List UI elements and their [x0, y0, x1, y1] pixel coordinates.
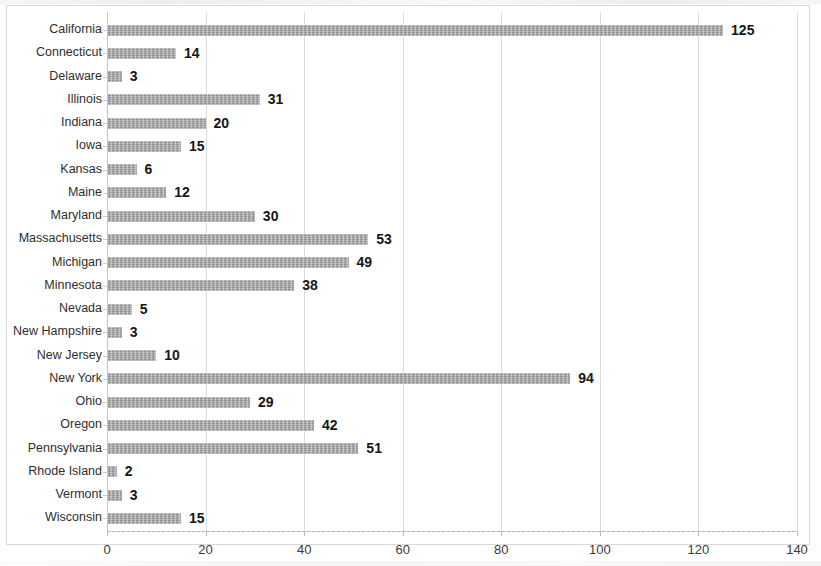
bar [107, 420, 314, 431]
category-label: Massachusetts [2, 231, 102, 245]
y-axis-tick [103, 518, 107, 519]
bar [107, 234, 368, 245]
bar-value-label: 30 [263, 208, 279, 224]
bar-value-label: 29 [258, 394, 274, 410]
y-axis-tick [103, 309, 107, 310]
bar-value-label: 15 [189, 510, 205, 526]
bar-value-label: 49 [357, 254, 373, 270]
y-axis-tick [103, 216, 107, 217]
x-axis-tick [206, 531, 207, 536]
bar [107, 397, 250, 408]
plot-area: 0204060801001201401251433120156123053493… [107, 12, 797, 531]
x-axis-tick-label: 80 [494, 542, 508, 557]
x-axis-tick [501, 531, 502, 536]
bar [107, 118, 206, 129]
bar [107, 513, 181, 524]
bar [107, 141, 181, 152]
y-axis-tick [103, 77, 107, 78]
category-label: Michigan [2, 255, 102, 269]
category-label: Maine [2, 185, 102, 199]
y-axis-tick [103, 472, 107, 473]
x-axis-tick [698, 531, 699, 536]
category-label: New Jersey [2, 348, 102, 362]
y-axis-tick [103, 193, 107, 194]
y-axis-tick [103, 449, 107, 450]
x-axis-tick-label: 0 [103, 542, 110, 557]
x-axis-tick-label: 120 [688, 542, 710, 557]
bar-value-label: 3 [130, 487, 138, 503]
category-label: Nevada [2, 301, 102, 315]
x-axis-tick-label: 20 [198, 542, 212, 557]
category-label: Connecticut [2, 45, 102, 59]
y-axis-tick [103, 379, 107, 380]
scan-artifact-bottom [0, 561, 821, 566]
bar-value-label: 15 [189, 138, 205, 154]
x-axis-tick-label: 140 [786, 542, 808, 557]
bar-value-label: 20 [214, 115, 230, 131]
scan-artifact-top [0, 0, 821, 4]
x-axis-tick [403, 531, 404, 536]
category-label: Ohio [2, 394, 102, 408]
category-label: Vermont [2, 487, 102, 501]
y-axis-tick [103, 53, 107, 54]
bar [107, 280, 294, 291]
bar-value-label: 2 [125, 463, 133, 479]
bar [107, 164, 137, 175]
gridline [600, 12, 601, 531]
y-axis-tick [103, 100, 107, 101]
category-label: California [2, 22, 102, 36]
x-axis-tick [107, 531, 108, 536]
category-label: Kansas [2, 162, 102, 176]
bar-value-label: 14 [184, 45, 200, 61]
y-axis-tick [103, 356, 107, 357]
category-label: Indiana [2, 115, 102, 129]
category-label: Pennsylvania [2, 441, 102, 455]
category-label: Illinois [2, 92, 102, 106]
category-label: Oregon [2, 417, 102, 431]
bar-value-label: 53 [376, 231, 392, 247]
bar [107, 187, 166, 198]
bar-value-label: 51 [366, 440, 382, 456]
gridline [501, 12, 502, 531]
y-axis-tick [103, 123, 107, 124]
bar-value-label: 6 [145, 161, 153, 177]
bar-value-label: 125 [731, 22, 754, 38]
bar-value-label: 42 [322, 417, 338, 433]
y-axis-tick [103, 146, 107, 147]
x-axis-tick-label: 60 [395, 542, 409, 557]
y-axis-tick [103, 286, 107, 287]
bar-value-label: 38 [302, 277, 318, 293]
bar [107, 490, 122, 501]
bar [107, 304, 132, 315]
x-axis-line [107, 531, 797, 532]
bar [107, 350, 156, 361]
x-axis-tick [304, 531, 305, 536]
y-axis-tick [103, 495, 107, 496]
y-axis-tick [103, 239, 107, 240]
category-label: Minnesota [2, 278, 102, 292]
bar-chart: CaliforniaConnecticutDelawareIllinoisInd… [0, 0, 821, 566]
y-axis-tick [103, 402, 107, 403]
bar [107, 211, 255, 222]
bar [107, 71, 122, 82]
y-axis-tick [103, 263, 107, 264]
bar-value-label: 12 [174, 184, 190, 200]
category-label: Iowa [2, 138, 102, 152]
bar-value-label: 3 [130, 68, 138, 84]
bar [107, 48, 176, 59]
x-axis-tick-label: 100 [589, 542, 611, 557]
x-axis-tick [797, 531, 798, 536]
category-label: New Hampshire [2, 324, 102, 338]
bar [107, 257, 349, 268]
x-axis-tick-label: 40 [297, 542, 311, 557]
bar [107, 443, 358, 454]
bar-value-label: 31 [268, 91, 284, 107]
y-axis-tick [103, 30, 107, 31]
y-axis-tick [103, 332, 107, 333]
category-axis: CaliforniaConnecticutDelawareIllinoisInd… [0, 12, 102, 531]
x-axis-tick [600, 531, 601, 536]
bar-value-label: 3 [130, 324, 138, 340]
gridline [403, 12, 404, 531]
bar [107, 466, 117, 477]
category-label: Rhode Island [2, 464, 102, 478]
